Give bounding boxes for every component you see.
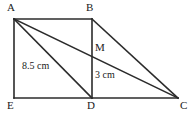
vertex-label-d: D bbox=[87, 100, 95, 111]
vertex-label-a: A bbox=[7, 2, 15, 13]
vertex-label-m: M bbox=[95, 42, 105, 53]
figure-canvas bbox=[0, 0, 194, 115]
vertex-label-e: E bbox=[7, 100, 14, 111]
segment-group bbox=[14, 19, 178, 98]
vertex-label-c: C bbox=[180, 100, 187, 111]
segment-BC bbox=[92, 19, 178, 98]
segment-AC bbox=[14, 19, 178, 98]
vertex-label-b: B bbox=[86, 2, 93, 13]
measurement-label-md: 3 cm bbox=[95, 70, 115, 80]
geometry-figure: A B M E D C 8.5 cm 3 cm bbox=[0, 0, 194, 115]
segment-AD bbox=[14, 19, 92, 98]
measurement-label-ad: 8.5 cm bbox=[22, 61, 49, 71]
